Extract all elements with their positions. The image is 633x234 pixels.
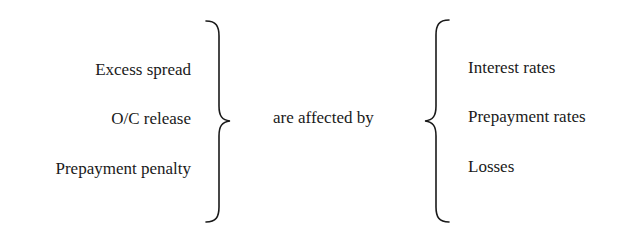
right-group: Interest rates Prepayment rates Losses	[468, 0, 633, 234]
right-item-interest-rates: Interest rates	[468, 58, 555, 78]
right-item-losses: Losses	[468, 157, 514, 177]
brace-diagram: Excess spread O/C release Prepayment pen…	[0, 0, 633, 234]
right-item-prepayment-rates: Prepayment rates	[468, 107, 586, 127]
